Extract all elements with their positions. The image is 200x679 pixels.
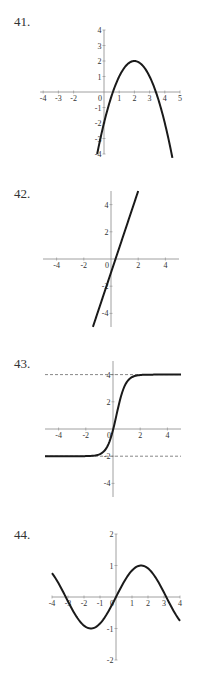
x-tick-label: -4	[40, 94, 47, 103]
x-tick-label: 3	[148, 94, 152, 103]
y-tick-label: 4	[98, 26, 102, 35]
x-tick-label: 5	[178, 94, 182, 103]
x-tick-label: -4	[49, 599, 56, 608]
x-tick-label: -4	[53, 261, 60, 270]
y-tick-label: -4	[104, 479, 111, 488]
y-tick-label: -4	[102, 309, 109, 318]
function-curve	[97, 61, 172, 158]
y-tick-label: 4	[107, 371, 111, 380]
x-tick-label: 1	[117, 94, 121, 103]
y-tick-label: 4	[105, 201, 109, 210]
x-tick-label: -3	[55, 94, 62, 103]
y-tick-label: 2	[107, 398, 111, 407]
y-tick-label: 2	[98, 57, 102, 66]
x-tick-label: 4	[163, 261, 167, 270]
chart-44: -4-3-2-10123421-1-2	[49, 530, 182, 665]
y-tick-label: -2	[95, 119, 102, 128]
x-tick-label: -4	[55, 431, 62, 440]
y-tick-label: 1	[110, 562, 114, 571]
x-tick-label: -1	[97, 599, 104, 608]
x-tick-label: 0	[98, 94, 102, 103]
x-tick-label: 2	[138, 431, 142, 440]
x-tick-label: -2	[80, 261, 87, 270]
x-tick-label: 2	[136, 261, 140, 270]
chart-41: -4-3-20123454321-1-2-3-4	[40, 26, 182, 159]
y-tick-label: 2	[105, 228, 109, 237]
y-tick-label: 1	[98, 73, 102, 82]
x-tick-label: -2	[82, 431, 89, 440]
chart-43: -4-202442-2-4	[45, 361, 181, 497]
x-tick-label: 4	[178, 599, 182, 608]
x-tick-label: 4	[163, 94, 167, 103]
x-tick-label: 4	[165, 431, 169, 440]
x-tick-label: 1	[130, 599, 134, 608]
y-tick-label: -2	[107, 656, 114, 665]
y-tick-label: -1	[107, 625, 114, 634]
x-tick-label: 2	[146, 599, 150, 608]
chart-42: -4-202442-2-4	[43, 191, 179, 327]
plots-canvas: -4-3-20123454321-1-2-3-4-4-202442-2-4-4-…	[0, 0, 200, 679]
y-tick-label: -1	[95, 104, 102, 113]
x-tick-label: 0	[105, 261, 109, 270]
y-tick-label: -2	[104, 452, 111, 461]
y-tick-label: 2	[110, 530, 114, 539]
y-tick-label: 3	[98, 42, 102, 51]
x-tick-label: -2	[70, 94, 77, 103]
x-tick-label: 2	[132, 94, 136, 103]
x-tick-label: -2	[81, 599, 88, 608]
x-tick-label: 3	[162, 599, 166, 608]
